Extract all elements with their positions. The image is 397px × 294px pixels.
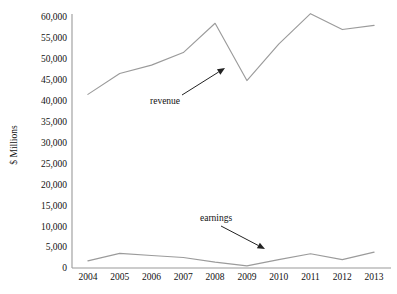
x-tick-label: 2009	[237, 272, 256, 282]
x-tick-label: 2012	[333, 272, 352, 282]
x-tick-label: 2005	[110, 272, 129, 282]
y-tick-label: 15,000	[41, 201, 67, 211]
annotation-group: revenueearnings	[150, 68, 265, 249]
y-tick-label: 30,000	[41, 138, 67, 148]
annotation-arrow-line-earnings	[221, 226, 258, 246]
chart-canvas: $ Millions 05,00010,00015,00020,00025,00…	[0, 0, 397, 294]
x-tick-label: 2013	[365, 272, 384, 282]
x-tick-label: 2008	[206, 272, 225, 282]
y-tick-label: 10,000	[41, 222, 67, 232]
y-tick-label: 45,000	[41, 75, 67, 85]
y-tick-label: 0	[62, 263, 67, 273]
y-tick-label: 25,000	[41, 159, 67, 169]
x-tick-label: 2011	[301, 272, 320, 282]
series-line-revenue	[88, 14, 374, 95]
chart-figure: $ Millions 05,00010,00015,00020,00025,00…	[0, 0, 397, 294]
series-group	[88, 14, 374, 266]
series-line-earnings	[88, 252, 374, 266]
y-tick-label: 5,000	[46, 242, 68, 252]
annotation-arrow-line-revenue	[182, 72, 219, 95]
y-tick-label: 60,000	[41, 12, 67, 22]
x-tick-label: 2004	[78, 272, 97, 282]
y-tick-label: 50,000	[41, 54, 67, 64]
annotation-arrow-head-revenue	[217, 68, 225, 75]
annotation-label-earnings: earnings	[200, 213, 232, 223]
y-axis-tick-labels: 05,00010,00015,00020,00025,00030,00035,0…	[41, 12, 67, 273]
y-tick-label: 20,000	[41, 180, 67, 190]
x-tick-label: 2007	[174, 272, 193, 282]
y-axis-title: $ Millions	[9, 125, 19, 165]
y-tick-label: 55,000	[41, 33, 67, 43]
annotation-label-revenue: revenue	[150, 96, 180, 106]
x-tick-label: 2010	[269, 272, 288, 282]
y-tick-label: 40,000	[41, 96, 67, 106]
y-tick-label: 35,000	[41, 117, 67, 127]
x-tick-label: 2006	[142, 272, 161, 282]
x-axis-tick-labels: 2004200520062007200820092010201120122013	[78, 272, 383, 282]
